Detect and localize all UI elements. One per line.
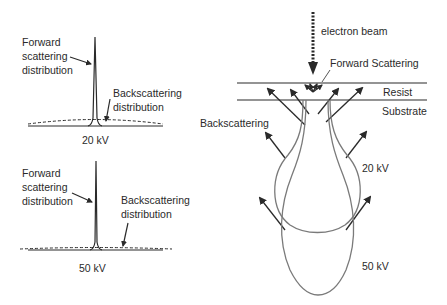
- forward-scatter-arrows: [305, 84, 322, 92]
- backscatter-curve: [20, 248, 172, 250]
- back-arrow-icon: [106, 99, 110, 121]
- forward-arrow-icon: [72, 193, 92, 202]
- voltage-label: 20 kV: [82, 134, 109, 146]
- distribution-plot-20kv: Forward scattering distribution Backscat…: [22, 36, 182, 146]
- voltage-label: 50 kV: [79, 262, 106, 274]
- back-label-line2: distribution: [113, 101, 164, 113]
- resist-label: Resist: [383, 86, 412, 98]
- back-label-line1: Backscattering: [113, 87, 182, 99]
- forward-label-line2: scattering: [22, 50, 68, 62]
- forward-scattering-label: Forward Scattering: [330, 57, 419, 69]
- back-label-line1: Backscattering: [121, 194, 190, 206]
- forward-label-line2: scattering: [22, 181, 68, 193]
- electron-beam-icon: [308, 12, 318, 75]
- backscatter-arrows: [260, 88, 370, 230]
- forward-arrow-icon: [70, 57, 91, 64]
- backscattering-label: Backscattering: [200, 117, 269, 129]
- interaction-volume-50kv: [282, 100, 354, 295]
- electron-beam-label: electron beam: [321, 25, 388, 37]
- backscatter-curve: [28, 120, 163, 125]
- forward-peak: [90, 161, 102, 250]
- substrate-label: Substrate: [382, 105, 427, 117]
- back-arrow-icon: [123, 223, 128, 246]
- forward-scattering-leader: [322, 70, 330, 82]
- interaction-volume-20kv: [275, 100, 361, 233]
- interaction-volume-diagram: electron beam Forward Scattering Resist …: [200, 12, 427, 295]
- electron-scattering-diagram: Forward scattering distribution Backscat…: [0, 0, 447, 305]
- forward-label-line1: Forward: [22, 36, 61, 48]
- forward-label-line3: distribution: [22, 64, 73, 76]
- distribution-plot-50kv: Forward scattering distribution Backscat…: [20, 161, 190, 274]
- forward-label-line1: Forward: [22, 167, 61, 179]
- back-label-line2: distribution: [121, 208, 172, 220]
- forward-label-line3: distribution: [22, 195, 73, 207]
- forward-peak: [88, 37, 102, 126]
- volume-label-50kv: 50 kV: [362, 260, 389, 272]
- volume-label-20kv: 20 kV: [362, 162, 389, 174]
